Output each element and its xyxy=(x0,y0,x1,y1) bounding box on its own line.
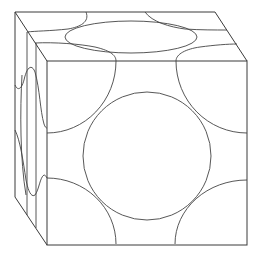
front-top-right-arc xyxy=(176,61,247,133)
front-top-left-arc xyxy=(47,61,116,133)
fcc-unit-cell-diagram xyxy=(0,0,261,258)
top-center-sphere xyxy=(65,21,197,53)
top-face-spheres xyxy=(27,12,237,61)
bottom-left-edge xyxy=(15,197,47,245)
front-bottom-right-arc xyxy=(175,180,247,244)
cube-drawing xyxy=(0,0,261,258)
front-bottom-left-arc xyxy=(47,178,116,244)
left-face-spheres xyxy=(15,32,47,228)
top-back-left-arc xyxy=(27,12,87,32)
left-face-lower-wave xyxy=(15,130,47,196)
top-face-outline xyxy=(15,12,247,61)
top-back-right-arc xyxy=(145,12,227,30)
left-face-upper-wave xyxy=(15,67,47,128)
front-face-outline xyxy=(47,61,247,245)
cube-edges xyxy=(15,12,247,245)
front-face-spheres xyxy=(47,61,247,244)
front-center-sphere xyxy=(83,92,211,220)
